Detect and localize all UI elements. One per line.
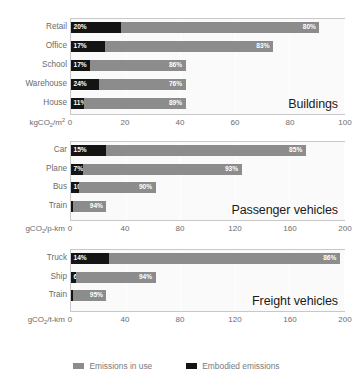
- bar-label-in-use: 94%: [137, 274, 153, 281]
- bar-label-embodied: 11%: [72, 100, 84, 107]
- bar-segment-in-use: 89%: [84, 98, 186, 109]
- plot-area-buildings: Retail20%80%Office17%83%School17%86%Ware…: [70, 18, 345, 115]
- x-axis-freight: gCO2/t-km 04080120160200: [70, 315, 345, 329]
- x-axis-tick-label: 100: [338, 118, 351, 127]
- x-axis-title-rest: /t-km: [47, 315, 65, 324]
- stacked-bar: 6%94%: [71, 201, 106, 212]
- bar-row: School17%86%: [71, 60, 344, 71]
- panel-title-buildings: Buildings: [288, 97, 338, 111]
- bar-label-in-use: 93%: [223, 166, 239, 173]
- stacked-bar: 15%85%: [71, 145, 306, 156]
- x-axis-title-sub: 2: [44, 319, 47, 325]
- bar-segment-in-use: 76%: [99, 79, 186, 90]
- bar-category-label: Car: [1, 146, 67, 154]
- x-axis-tick-label: 200: [338, 224, 351, 233]
- bar-segment-in-use: 80%: [121, 22, 320, 33]
- panel-title-freight: Freight vehicles: [252, 294, 338, 308]
- bar-label-in-use: 86%: [322, 255, 338, 262]
- legend-label-embodied: Embodied emissions: [202, 361, 279, 371]
- x-axis-tick-label: 40: [121, 315, 130, 324]
- stacked-bar: 24%76%: [71, 79, 186, 90]
- x-axis-tick-label: 0: [68, 224, 72, 233]
- x-axis-ticks-freight: 04080120160200: [70, 315, 345, 329]
- bar-row: Bus10%90%: [71, 182, 344, 193]
- bar-category-label: Train: [1, 291, 67, 299]
- bar-segment-in-use: 95%: [73, 290, 107, 301]
- x-axis-tick-label: 120: [228, 315, 241, 324]
- x-axis-title-main: gCO: [28, 315, 44, 324]
- stacked-bar: 17%83%: [71, 41, 273, 52]
- x-axis-title-sup: 2: [62, 117, 65, 123]
- x-axis-passenger: gCO2/p-km 04080120160200: [70, 224, 345, 238]
- plot-area-passenger: Car15%85%Plane7%93%Bus10%90%Train6%94% P…: [70, 141, 345, 221]
- bar-category-label: Train: [1, 202, 67, 210]
- x-axis-title-main: gCO: [25, 224, 41, 233]
- bar-segment-embodied: 15%: [71, 145, 106, 156]
- x-axis-title-buildings: kgCO2/m2: [29, 118, 65, 127]
- bar-label-embodied: 24%: [72, 81, 88, 88]
- bar-label-in-use: 86%: [167, 62, 183, 69]
- bar-label-embodied: 7%: [72, 166, 83, 173]
- stacked-bar: 10%90%: [71, 182, 156, 193]
- x-axis-tick-label: 0: [68, 315, 72, 324]
- bar-label-embodied: 14%: [72, 255, 88, 262]
- bar-row: Office17%83%: [71, 41, 344, 52]
- bar-category-label: Retail: [1, 23, 67, 31]
- x-axis-title-sub: 2: [50, 122, 53, 128]
- gridline: [344, 142, 345, 220]
- x-axis-tick-label: 160: [283, 315, 296, 324]
- bar-segment-in-use: 83%: [105, 41, 273, 52]
- x-axis-tick-label: 160: [283, 224, 296, 233]
- bar-label-in-use: 80%: [301, 24, 317, 31]
- bar-label-embodied: 10%: [72, 184, 79, 191]
- bar-row: Warehouse24%76%: [71, 79, 344, 90]
- bar-segment-embodied: 17%: [71, 60, 90, 71]
- bar-category-label: Bus: [1, 183, 67, 191]
- stacked-bar: 11%89%: [71, 98, 186, 109]
- bar-segment-embodied: 14%: [71, 253, 109, 264]
- gridline: [344, 250, 345, 311]
- bar-segment-in-use: 86%: [109, 253, 340, 264]
- x-axis-title-sub: 2: [42, 228, 45, 234]
- emissions-stacked-bar-chart: Retail20%80%Office17%83%School17%86%Ware…: [0, 0, 353, 378]
- bar-category-label: Plane: [1, 165, 67, 173]
- bar-row: Plane7%93%: [71, 164, 344, 175]
- x-axis-tick-label: 80: [176, 315, 185, 324]
- bar-label-in-use: 83%: [255, 43, 271, 50]
- bar-row: Retail20%80%: [71, 22, 344, 33]
- bar-segment-in-use: 94%: [73, 201, 106, 212]
- legend-swatch-embodied-icon: [186, 363, 197, 369]
- bar-label-in-use: 89%: [167, 100, 183, 107]
- x-axis-tick-label: 20: [121, 118, 130, 127]
- bar-segment-in-use: 86%: [90, 60, 186, 71]
- legend-item-emissions-in-use: Emissions in use: [73, 361, 152, 371]
- bar-category-label: House: [1, 99, 67, 107]
- x-axis-tick-label: 80: [176, 224, 185, 233]
- bar-category-label: Warehouse: [1, 80, 67, 88]
- bar-row: Ship6%94%: [71, 272, 344, 283]
- bar-segment-in-use: 94%: [76, 272, 156, 283]
- bar-label-in-use: 85%: [288, 147, 304, 154]
- bar-row: Truck14%86%: [71, 253, 344, 264]
- panel-freight-vehicles: Truck14%86%Ship6%94%Train5%95% Freight v…: [0, 249, 353, 335]
- x-axis-buildings: kgCO2/m2 020406080100: [70, 118, 345, 132]
- stacked-bar: 20%80%: [71, 22, 319, 33]
- x-axis-tick-label: 80: [286, 118, 295, 127]
- x-axis-tick-label: 40: [176, 118, 185, 127]
- bar-segment-in-use: 90%: [79, 182, 155, 193]
- bar-label-in-use: 90%: [137, 184, 153, 191]
- legend-item-embodied-emissions: Embodied emissions: [186, 361, 279, 371]
- bar-label-in-use: 95%: [88, 292, 104, 299]
- x-axis-tick-label: 60: [231, 118, 240, 127]
- gridline: [344, 19, 345, 114]
- bar-row: Car15%85%: [71, 145, 344, 156]
- x-axis-tick-label: 0: [68, 118, 72, 127]
- plot-area-freight: Truck14%86%Ship6%94%Train5%95% Freight v…: [70, 249, 345, 312]
- stacked-bar: 5%95%: [71, 290, 106, 301]
- legend-label-in-use: Emissions in use: [89, 361, 152, 371]
- x-axis-tick-label: 120: [228, 224, 241, 233]
- bar-label-in-use: 94%: [88, 203, 104, 210]
- stacked-bar: 14%86%: [71, 253, 340, 264]
- bar-segment-embodied: 17%: [71, 41, 105, 52]
- bar-category-label: School: [1, 61, 67, 69]
